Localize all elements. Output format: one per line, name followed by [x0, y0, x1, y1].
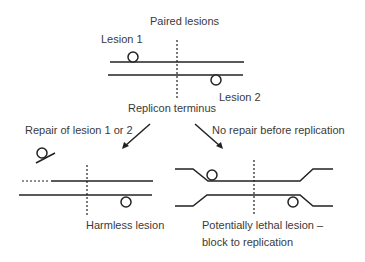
excised-lesion-icon	[37, 148, 47, 158]
lesion-2-icon	[288, 197, 298, 207]
lethal-lesion-label-2: block to replication	[202, 236, 293, 249]
lethal-lesion-label-1: Potentially lethal lesion –	[202, 219, 323, 232]
blocked-replication-dna	[175, 160, 333, 215]
no-repair-branch-label: No repair before replication	[212, 124, 345, 137]
paired-lesions-dna	[108, 40, 244, 98]
lesion-2-icon	[211, 75, 221, 85]
lesion-icon	[121, 197, 131, 207]
lesion-2-label: Lesion 2	[219, 91, 261, 104]
arrows	[122, 124, 223, 149]
title-label: Paired lesions	[150, 15, 219, 28]
harmless-lesion-label: Harmless lesion	[86, 219, 164, 232]
replicon-terminus-label: Replicon terminus	[128, 102, 216, 115]
lesion-1-label: Lesion 1	[101, 33, 143, 46]
dna-strand-top	[175, 169, 333, 181]
repaired-dna	[19, 148, 153, 215]
lesion-1-icon	[207, 170, 217, 180]
lesion-1-icon	[128, 52, 138, 62]
repair-branch-label: Repair of lesion 1 or 2	[25, 124, 133, 137]
